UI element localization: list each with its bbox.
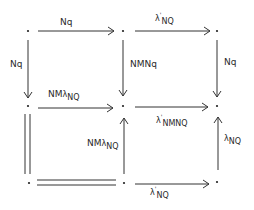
node-r1c0 [27,105,29,107]
label-mid-left: NMλNQ [48,90,80,102]
node-r2c0 [28,182,30,184]
node-r0c1 [122,30,124,32]
label-top-left: Nq [60,18,72,27]
label-left-upper: Nq [10,60,22,69]
label-mid-upper: NMNq [130,60,157,69]
node-r2c1 [123,182,125,184]
label-mid-right: λ'NMNQ [156,114,188,128]
subscript: NQ [161,17,173,26]
node-r1c2 [216,105,218,107]
prefix: NM [48,89,63,99]
subscript: NMNQ [162,119,187,128]
node-r1c1 [122,105,124,107]
subscript: NQ [229,137,241,146]
label-right-upper: Nq [224,58,236,67]
label-bottom-right: λ'NQ [150,186,169,200]
node-r2c2 [216,181,218,183]
prefix: NM [87,138,102,148]
label-top-right: λ'NQ [155,12,174,26]
subscript: NQ [106,142,118,151]
subscript: NQ [67,93,79,102]
node-r0c2 [216,30,218,32]
label-mid-lower: NMλNQ [87,139,119,151]
subscript: NQ [156,191,168,200]
diagram-canvas [0,0,254,210]
node-r0c0 [27,30,29,32]
label-right-lower: λNQ [224,134,241,146]
